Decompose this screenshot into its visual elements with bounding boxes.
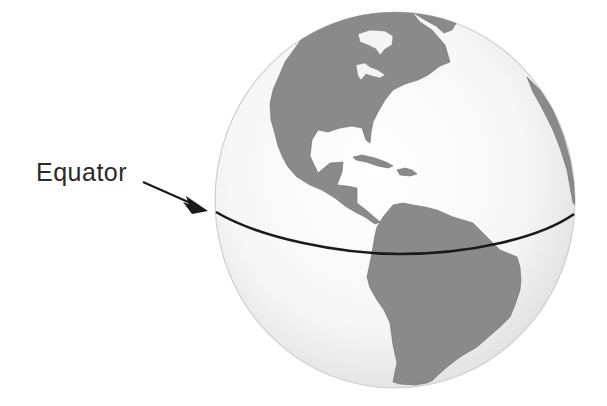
globe-diagram: [0, 0, 607, 406]
equator-label: Equator: [36, 158, 127, 187]
arrow-icon: [143, 182, 208, 214]
